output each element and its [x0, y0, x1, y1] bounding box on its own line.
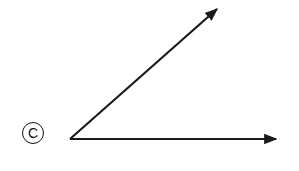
upper-ray	[70, 9, 217, 139]
angle-label-text: C	[28, 126, 38, 140]
angle-label: C	[22, 122, 44, 144]
angle-diagram	[0, 0, 299, 171]
